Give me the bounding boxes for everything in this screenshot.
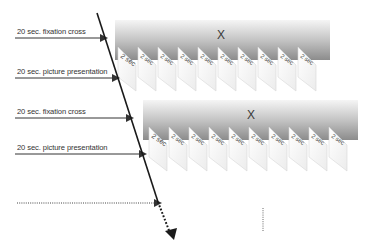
block-2: X2 sec2 sec2 sec2 sec2 sec2 sec2 sec2 se… [143, 100, 358, 171]
timeline-arrowhead-icon [165, 228, 177, 240]
label-fixation-1: 20 sec. fixation cross [17, 27, 86, 36]
block-1: X2 sec2 sec2 sec2 sec2 sec2 sec2 sec2 se… [115, 20, 330, 91]
diagram-canvas: X2 sec2 sec2 sec2 sec2 sec2 sec2 sec2 se… [0, 0, 371, 247]
label-picture-2: 20 sec. picture presentation [17, 143, 108, 152]
fixation-cross: X [217, 28, 225, 42]
label-fixation-2: 20 sec. fixation cross [17, 107, 86, 116]
timeline-dotted [158, 202, 170, 233]
fixation-cross: X [247, 108, 255, 122]
label-picture-1: 20 sec. picture presentation [17, 67, 108, 76]
